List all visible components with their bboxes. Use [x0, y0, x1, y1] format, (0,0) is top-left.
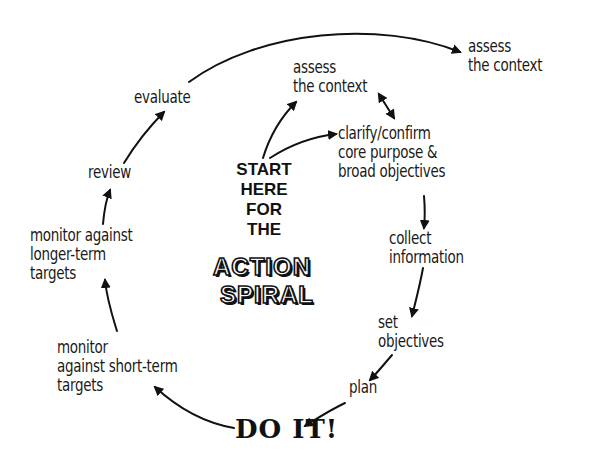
arrow-review-to-evaluate	[124, 112, 164, 163]
start-line-2: HERE	[229, 180, 299, 200]
start-label: START HERE FOR THE	[229, 160, 299, 240]
node-collect: collect information	[389, 229, 464, 267]
spiral-title-line-1: ACTION	[213, 253, 311, 281]
node-evaluate: evaluate	[134, 88, 190, 107]
start-line-3: FOR	[229, 200, 299, 220]
spiral-title-line-2: SPIRAL	[220, 281, 314, 309]
arrow-monitor-long-to-review	[103, 190, 110, 224]
node-do-it: DO IT!	[235, 414, 338, 444]
node-monitor-short: monitor against short-term targets	[57, 338, 178, 395]
node-set-objectives: set objectives	[378, 313, 444, 351]
arrow-start-to-assess	[263, 102, 296, 158]
arrow-start-to-clarify	[270, 134, 336, 158]
arrow-collect-to-set	[412, 268, 423, 316]
node-review: review	[88, 163, 131, 182]
arrow-clarify-to-collect	[424, 196, 425, 228]
arrow-assess-clarify	[382, 99, 394, 118]
start-line-4: THE	[229, 220, 299, 240]
node-clarify: clarify/confirm core purpose & broad obj…	[338, 124, 445, 181]
node-assess-inner: assess the context	[293, 58, 367, 96]
node-plan: plan	[349, 378, 377, 397]
node-assess-outer: assess the context	[468, 37, 542, 75]
arrow-monitor-short-to-long	[105, 280, 117, 331]
start-line-1: START	[229, 160, 299, 180]
node-monitor-long: monitor against longer-term targets	[30, 226, 133, 283]
